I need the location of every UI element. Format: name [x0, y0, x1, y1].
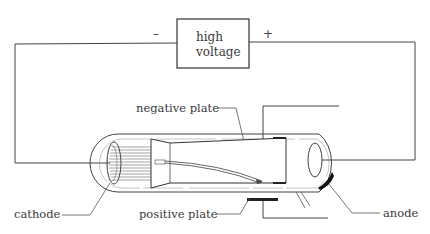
- high-voltage-label-line1: high: [196, 30, 223, 44]
- positive-terminal-sign: +: [263, 27, 273, 41]
- deflection-chamber: [151, 137, 286, 188]
- negative-plate-label: negative plate: [136, 101, 219, 115]
- anode-label: anode: [383, 206, 419, 220]
- anode-leader: [329, 184, 380, 213]
- cathode: [107, 142, 151, 184]
- positive-plate-label: positive plate: [139, 207, 218, 221]
- cathode-label: cathode: [14, 207, 61, 221]
- positive-plate-leader: [216, 199, 249, 214]
- crt-diagram: high voltage – + negative plate positive…: [0, 0, 430, 234]
- high-voltage-label-line2: voltage: [195, 45, 241, 59]
- high-voltage-box: high voltage: [177, 19, 249, 68]
- negative-terminal-sign: –: [153, 27, 159, 41]
- positive-plate: [247, 198, 328, 218]
